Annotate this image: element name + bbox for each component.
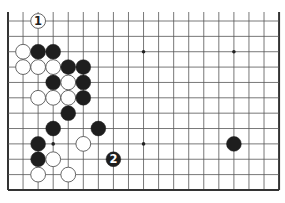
white-stone <box>46 90 61 105</box>
white-stone <box>31 167 46 182</box>
black-stone <box>76 60 91 75</box>
move-number-label: 1 <box>34 14 42 28</box>
white-stone <box>61 90 76 105</box>
white-stone <box>16 44 31 59</box>
star-point <box>51 142 55 146</box>
white-stone <box>31 90 46 105</box>
black-stone <box>227 136 242 151</box>
star-point <box>142 142 146 146</box>
white-stone <box>76 136 91 151</box>
black-stone <box>46 44 61 59</box>
black-stone <box>61 106 76 121</box>
white-stone <box>61 167 76 182</box>
black-stone: 2 <box>106 152 121 167</box>
black-stone <box>76 75 91 90</box>
black-stone <box>31 44 46 59</box>
star-point <box>142 50 146 54</box>
black-stone <box>46 121 61 136</box>
white-stone: 1 <box>31 14 46 29</box>
black-stone <box>31 152 46 167</box>
black-stone <box>76 90 91 105</box>
black-stone <box>31 136 46 151</box>
white-stone <box>46 152 61 167</box>
white-stone <box>16 60 31 75</box>
white-stone <box>61 75 76 90</box>
star-point <box>232 50 236 54</box>
black-stone <box>46 75 61 90</box>
black-stone <box>91 121 106 136</box>
white-stone <box>46 60 61 75</box>
go-board: 12 <box>0 0 285 203</box>
move-number-label: 2 <box>109 152 117 166</box>
black-stone <box>61 60 76 75</box>
white-stone <box>31 60 46 75</box>
